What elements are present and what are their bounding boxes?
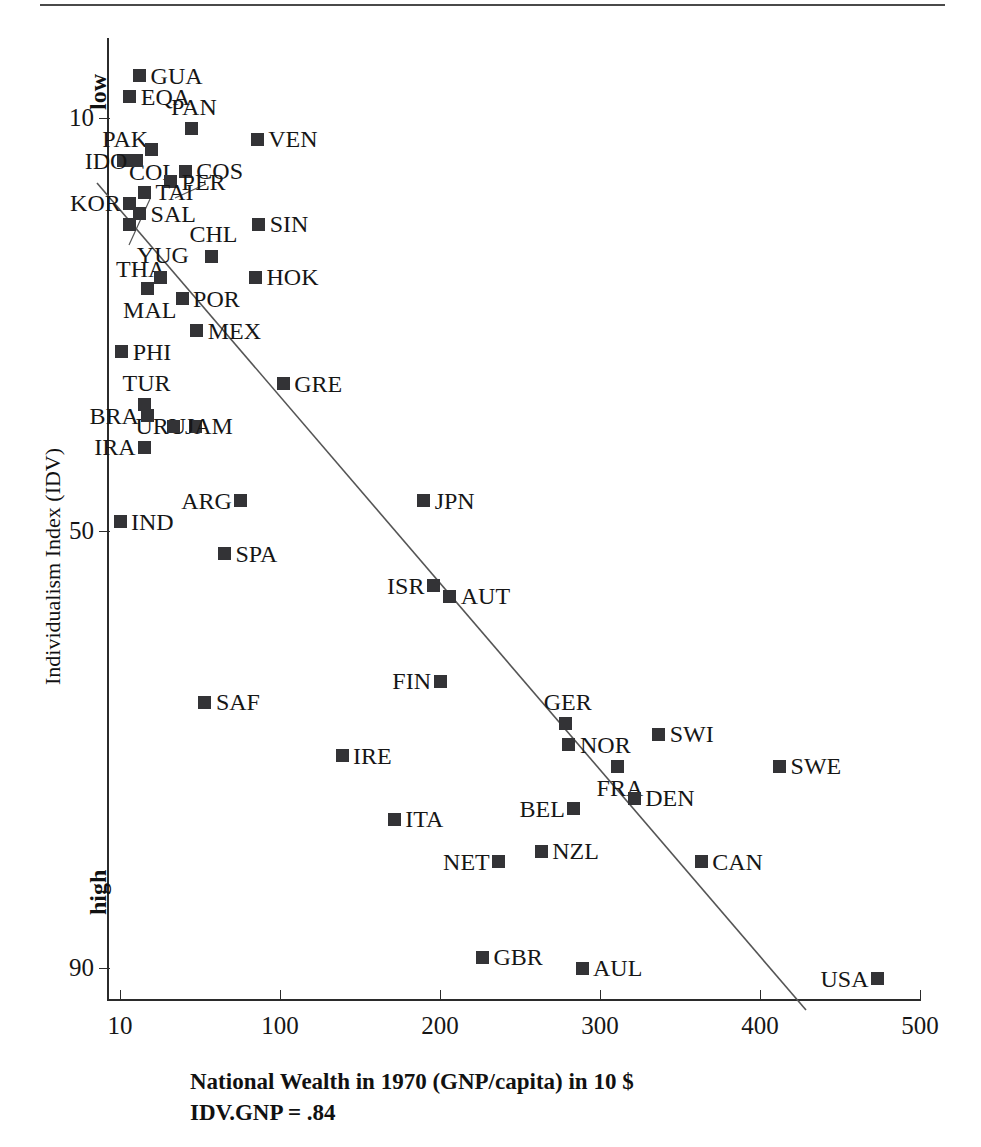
y-tick-label: 50 bbox=[40, 518, 94, 543]
data-point-jpn[interactable] bbox=[417, 494, 430, 507]
data-point-gua[interactable] bbox=[133, 69, 146, 82]
data-point-tai[interactable] bbox=[138, 186, 151, 199]
x-tick-label: 100 bbox=[240, 1013, 320, 1038]
data-point-label-isr: ISR bbox=[369, 574, 424, 598]
data-point-label-por: POR bbox=[193, 287, 240, 311]
x-tick-label: 500 bbox=[880, 1013, 960, 1038]
data-point-mal[interactable] bbox=[141, 282, 154, 295]
data-point-label-ido: IDO bbox=[72, 149, 127, 173]
data-point-label-bra: BRA bbox=[84, 404, 139, 428]
data-point-ira[interactable] bbox=[138, 441, 151, 454]
data-point-can[interactable] bbox=[695, 855, 708, 868]
data-point-aul[interactable] bbox=[576, 962, 589, 975]
chart-caption: National Wealth in 1970 (GNP/capita) in … bbox=[190, 1066, 890, 1128]
data-point-label-usa: USA bbox=[814, 967, 869, 991]
data-point-label-ira: IRA bbox=[80, 435, 135, 459]
data-point-nzl[interactable] bbox=[535, 845, 548, 858]
data-point-eqa[interactable] bbox=[123, 90, 136, 103]
data-point-pan[interactable] bbox=[185, 122, 198, 135]
y-tick-label: 90 bbox=[40, 955, 94, 980]
data-point-gre[interactable] bbox=[277, 377, 290, 390]
data-point-hok[interactable] bbox=[249, 271, 262, 284]
data-point-label-sin: SIN bbox=[270, 212, 309, 236]
data-point-ido[interactable] bbox=[130, 154, 143, 167]
data-point-label-hok: HOK bbox=[267, 265, 319, 289]
y-tick-mark bbox=[99, 531, 110, 532]
data-point-label-ire: IRE bbox=[353, 744, 392, 768]
data-point-label-ger: GER bbox=[540, 690, 596, 714]
data-point-ita[interactable] bbox=[388, 813, 401, 826]
data-point-tha[interactable] bbox=[123, 218, 136, 231]
y-axis-high-label: high bbox=[86, 870, 110, 915]
data-point-label-ita: ITA bbox=[405, 807, 443, 831]
data-point-label-kor: KOR bbox=[66, 191, 121, 215]
y-axis-line bbox=[107, 38, 109, 1000]
data-point-label-ind: IND bbox=[131, 510, 174, 534]
data-point-col[interactable] bbox=[145, 143, 158, 156]
data-point-label-swe: SWE bbox=[791, 754, 842, 778]
data-point-aut[interactable] bbox=[443, 590, 456, 603]
y-axis-title: Individualism Index (IDV) bbox=[42, 448, 64, 685]
x-tick-mark bbox=[600, 990, 601, 1000]
x-tick-mark bbox=[760, 990, 761, 1000]
data-point-label-mex: MEX bbox=[208, 319, 261, 343]
data-point-bel[interactable] bbox=[567, 802, 580, 815]
data-point-label-saf: SAF bbox=[216, 690, 260, 714]
data-point-label-pan: PAN bbox=[166, 95, 222, 119]
x-tick-mark bbox=[440, 990, 441, 1000]
data-point-label-aut: AUT bbox=[461, 584, 510, 608]
data-point-ven[interactable] bbox=[251, 133, 264, 146]
data-point-saf[interactable] bbox=[198, 696, 211, 709]
data-point-isr[interactable] bbox=[427, 579, 440, 592]
data-point-label-phi: PHI bbox=[133, 340, 172, 364]
data-point-swi[interactable] bbox=[652, 728, 665, 741]
data-point-sin[interactable] bbox=[252, 218, 265, 231]
data-point-label-can: CAN bbox=[712, 850, 763, 874]
y-tick-label: 10 bbox=[40, 105, 94, 130]
data-point-label-nor: NOR bbox=[580, 733, 631, 757]
data-point-label-aul: AUL bbox=[593, 956, 642, 980]
x-axis-line bbox=[107, 999, 921, 1001]
data-point-fra[interactable] bbox=[611, 760, 624, 773]
data-point-usa[interactable] bbox=[871, 972, 884, 985]
x-tick-mark bbox=[920, 990, 921, 1000]
data-point-label-jam: JAM bbox=[185, 414, 233, 438]
data-point-yug[interactable] bbox=[154, 271, 167, 284]
data-point-swe[interactable] bbox=[773, 760, 786, 773]
data-point-label-jpn: JPN bbox=[435, 489, 475, 513]
scatter-plot: low high Individualism Index (IDV) 10100… bbox=[0, 0, 981, 1147]
data-point-ger[interactable] bbox=[559, 717, 572, 730]
data-point-label-ven: VEN bbox=[268, 127, 317, 151]
x-tick-label: 200 bbox=[400, 1013, 480, 1038]
data-point-den[interactable] bbox=[628, 792, 641, 805]
data-point-jam[interactable] bbox=[167, 420, 180, 433]
data-point-label-gre: GRE bbox=[294, 372, 342, 396]
x-tick-label: 400 bbox=[720, 1013, 800, 1038]
data-point-label-tur: TUR bbox=[118, 371, 174, 395]
data-point-label-gbr: GBR bbox=[493, 945, 542, 969]
caption-line-1: National Wealth in 1970 (GNP/capita) in … bbox=[190, 1066, 890, 1097]
data-point-label-chl: CHL bbox=[185, 222, 241, 246]
data-point-mex[interactable] bbox=[190, 324, 203, 337]
data-point-ire[interactable] bbox=[336, 749, 349, 762]
x-tick-mark bbox=[120, 990, 121, 1000]
data-point-fin[interactable] bbox=[434, 675, 447, 688]
data-point-arg[interactable] bbox=[234, 494, 247, 507]
data-point-label-fin: FIN bbox=[376, 669, 431, 693]
data-point-label-den: DEN bbox=[645, 786, 694, 810]
data-point-label-swi: SWI bbox=[670, 722, 714, 746]
caption-line-2: IDV.GNP = .84 bbox=[190, 1097, 890, 1128]
y-tick-mark bbox=[99, 968, 110, 969]
data-point-nor[interactable] bbox=[562, 738, 575, 751]
data-point-net[interactable] bbox=[492, 855, 505, 868]
data-point-gbr[interactable] bbox=[476, 951, 489, 964]
data-point-bra[interactable] bbox=[141, 409, 154, 422]
data-point-ind[interactable] bbox=[114, 515, 127, 528]
data-point-phi[interactable] bbox=[115, 345, 128, 358]
data-point-chl[interactable] bbox=[205, 250, 218, 263]
data-point-spa[interactable] bbox=[218, 547, 231, 560]
x-tick-label: 10 bbox=[80, 1013, 160, 1038]
data-point-label-nzl: NZL bbox=[552, 839, 599, 863]
data-point-label-spa: SPA bbox=[235, 542, 277, 566]
x-tick-mark bbox=[280, 990, 281, 1000]
